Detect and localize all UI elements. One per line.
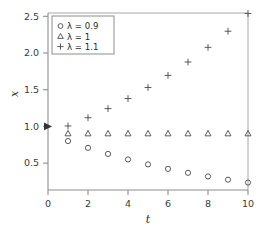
x-tick-label-3: 6: [165, 198, 171, 209]
data-point-triangle: [185, 130, 191, 135]
data-point-triangle: [165, 130, 171, 135]
legend-label-0: λ = 0.9: [67, 21, 98, 31]
series-1-markers: [65, 130, 251, 135]
data-point-triangle: [225, 130, 231, 135]
data-point-triangle: [145, 130, 151, 135]
data-point-circle: [85, 145, 90, 150]
data-point-triangle: [105, 130, 111, 135]
legend: λ = 0.9 λ = 1 λ = 1.1: [52, 16, 114, 54]
x-tick-label-1: 2: [85, 198, 91, 209]
data-point-circle: [205, 174, 210, 179]
data-point-plus: [205, 44, 212, 51]
series-0-markers: [65, 138, 250, 185]
x-tick-label-4: 8: [205, 198, 211, 209]
legend-label-1: λ = 1: [67, 32, 90, 42]
data-point-triangle: [205, 130, 211, 135]
y-tick-label-4: 2.5: [24, 11, 39, 22]
data-point-plus: [65, 123, 72, 130]
x-axis: 0 2 4 6 8 10 t: [45, 190, 254, 226]
y-tick-label-1: 1.0: [24, 121, 39, 132]
data-point-circle: [165, 166, 170, 171]
data-point-circle: [125, 157, 130, 162]
data-point-circle: [145, 162, 150, 167]
data-point-plus: [245, 10, 252, 17]
data-point-plus: [85, 114, 92, 121]
data-point-circle: [225, 177, 230, 182]
data-point-plus: [105, 105, 112, 112]
y-tick-label-3: 2.0: [24, 47, 39, 58]
x-tick-label-2: 4: [125, 198, 131, 209]
y-axis-title: x: [8, 90, 21, 97]
data-point-circle: [65, 138, 70, 143]
y-axis: 0.5 1.0 1.5 2.0 2.5 x: [8, 11, 48, 190]
scatter-chart: 0.5 1.0 1.5 2.0 2.5 x 0 2 4 6 8 10 t: [0, 0, 264, 229]
data-point-plus: [185, 59, 192, 66]
data-point-triangle: [65, 130, 71, 135]
x-tick-label-0: 0: [45, 198, 51, 209]
x-tick-label-5: 10: [242, 198, 254, 209]
x-axis-title: t: [146, 213, 151, 226]
y-tick-label-2: 1.5: [24, 84, 39, 95]
data-point-circle: [185, 170, 190, 175]
data-point-plus: [165, 72, 172, 79]
figure-container: 0.5 1.0 1.5 2.0 2.5 x 0 2 4 6 8 10 t: [0, 0, 264, 229]
data-point-plus: [145, 84, 152, 91]
data-point-plus: [125, 95, 132, 102]
data-point-triangle: [85, 130, 91, 135]
legend-label-2: λ = 1.1: [67, 42, 98, 52]
y-tick-label-0: 0.5: [24, 157, 39, 168]
data-point-triangle: [125, 130, 131, 135]
data-point-circle: [105, 151, 110, 156]
data-point-plus: [225, 28, 232, 35]
